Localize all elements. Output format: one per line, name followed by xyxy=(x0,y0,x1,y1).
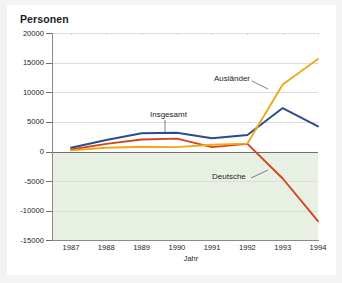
series-label-deutsche: Deutsche xyxy=(212,172,246,181)
leader-line-deutsche xyxy=(251,170,268,178)
series-label-insgesamt: Insgesamt xyxy=(150,110,187,119)
series-lines-svg xyxy=(0,0,342,283)
series-line-auslaender xyxy=(71,59,318,150)
series-label-auslaender: Ausländer xyxy=(214,74,250,83)
leader-line-auslaender xyxy=(252,81,268,89)
series-line-deutsche xyxy=(71,139,318,222)
chart-figure: Personen 20000 15000 10000 5000 0 -5000 … xyxy=(0,0,342,283)
series-line-insgesamt xyxy=(71,108,318,148)
